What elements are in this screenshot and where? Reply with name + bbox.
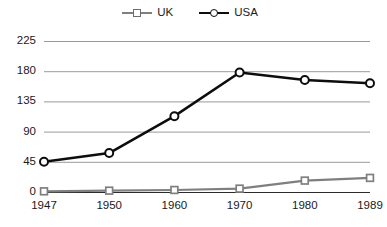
x-axis-tick-label: 1950: [85, 200, 133, 212]
data-point-usa-1989[interactable]: [366, 79, 374, 87]
x-axis-tick-label: 1947: [20, 200, 68, 212]
y-axis-tick-label: 225: [2, 35, 36, 47]
data-point-uk-1950[interactable]: [106, 187, 113, 194]
y-axis-tick-label: 180: [2, 65, 36, 77]
y-axis-tick-label: 45: [2, 156, 36, 168]
x-axis-tick-label: 1960: [150, 200, 198, 212]
data-point-usa-1950[interactable]: [105, 149, 113, 157]
y-axis-tick-label: 0: [2, 186, 36, 198]
x-axis-tick-label: 1970: [216, 200, 264, 212]
data-point-uk-1960[interactable]: [171, 187, 178, 194]
data-point-uk-1947[interactable]: [41, 188, 48, 195]
x-axis-tick-label: 1980: [281, 200, 329, 212]
series-line-uk: [44, 178, 370, 191]
data-point-usa-1980[interactable]: [301, 76, 309, 84]
data-point-usa-1960[interactable]: [170, 112, 178, 120]
data-point-uk-1989[interactable]: [367, 175, 374, 182]
data-point-usa-1947[interactable]: [40, 158, 48, 166]
x-axis-tick-label: 1989: [346, 200, 387, 212]
data-point-uk-1970[interactable]: [236, 185, 243, 192]
y-axis-tick-label: 90: [2, 126, 36, 138]
gridlines: [44, 42, 370, 163]
series-line-usa: [44, 73, 370, 162]
data-point-usa-1970[interactable]: [236, 69, 244, 77]
y-axis-tick-label: 135: [2, 95, 36, 107]
data-point-uk-1980[interactable]: [301, 177, 308, 184]
